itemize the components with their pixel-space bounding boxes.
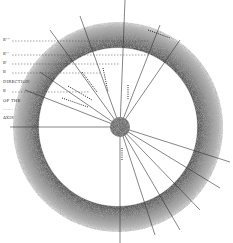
ring-diagram: E''' E'' E' E DIRECTION E OF THE ·······…	[0, 0, 233, 243]
label-e: E	[3, 70, 6, 74]
diagram-canvas	[0, 0, 233, 243]
label-dots: ·······	[3, 108, 13, 112]
label-e-lower: E	[3, 89, 6, 93]
label-direction: DIRECTION	[3, 80, 30, 84]
earth	[110, 117, 130, 137]
label-e1: E'	[3, 61, 7, 65]
label-e3: E'''	[3, 38, 10, 42]
label-axis: AXIS	[3, 116, 14, 120]
label-e2: E''	[3, 52, 9, 56]
label-of-the: OF THE	[3, 99, 21, 103]
